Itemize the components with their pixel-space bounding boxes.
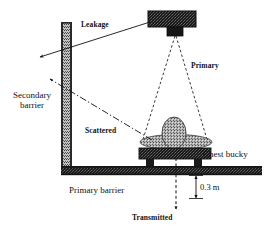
label-secondary-barrier: Secondary barrier xyxy=(4,90,60,111)
patient xyxy=(140,117,212,150)
label-distance: 0.3 m xyxy=(200,183,219,192)
label-transmitted: Transmitted xyxy=(132,214,173,222)
collimator xyxy=(167,27,183,36)
label-primary: Primary xyxy=(191,62,219,70)
label-secondary-barrier-line1: Secondary xyxy=(4,90,60,100)
xray-tube-head xyxy=(148,11,196,27)
label-secondary-barrier-line2: barrier xyxy=(4,100,60,110)
secondary-barrier-wall xyxy=(61,22,72,170)
label-primary-barrier: Primary barrier xyxy=(69,186,124,195)
label-scattered: Scattered xyxy=(85,127,116,135)
shielding-diagram xyxy=(0,0,265,233)
chest-bucky xyxy=(139,148,211,166)
diagram-canvas: Leakage Primary Secondary barrier Scatte… xyxy=(0,0,265,233)
label-leakage: Leakage xyxy=(81,21,109,29)
primary-barrier-floor xyxy=(61,166,262,175)
label-chest-bucky: Chest bucky xyxy=(203,150,248,159)
